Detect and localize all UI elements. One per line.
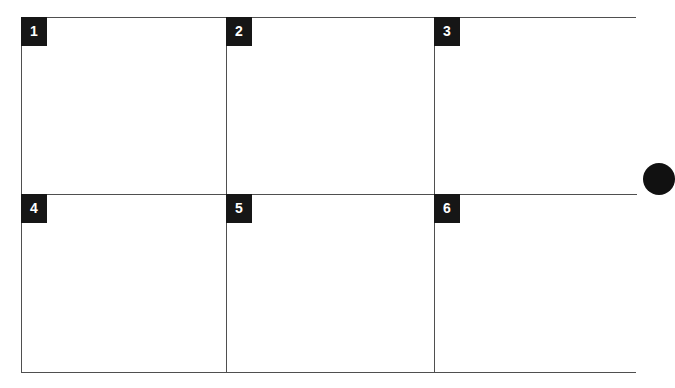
cell-badge-5: 5: [226, 194, 252, 223]
cell-badge-4: 4: [21, 194, 47, 223]
grid-cell-5[interactable]: 5: [227, 195, 435, 372]
numbered-grid-table: 1 2 3 4 5 6: [21, 17, 636, 373]
grid-cell-4[interactable]: 4: [22, 195, 227, 372]
grid-cell-1[interactable]: 1: [22, 18, 227, 195]
grid-cell-6[interactable]: 6: [435, 195, 637, 372]
cell-badge-2: 2: [226, 17, 252, 46]
bullet-point-icon: [643, 163, 675, 195]
grid-cell-3[interactable]: 3: [435, 18, 637, 195]
cell-badge-1: 1: [21, 17, 47, 46]
cell-badge-6: 6: [434, 194, 460, 223]
cell-badge-3: 3: [434, 17, 460, 46]
grid-cell-2[interactable]: 2: [227, 18, 435, 195]
